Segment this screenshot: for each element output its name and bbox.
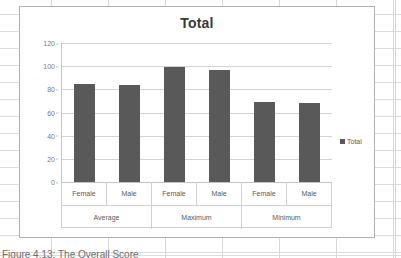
category-cell-statistic: Minimum: [242, 206, 331, 229]
bar[interactable]: [74, 84, 95, 182]
category-row-statistic: AverageMaximumMinimum: [62, 205, 331, 229]
category-row-gender: FemaleMaleFemaleMaleFemaleMale: [62, 182, 331, 205]
category-cell-gender: Male: [197, 182, 242, 205]
category-cell-gender: Female: [152, 182, 197, 205]
figure-caption: Figure 4.13: The Overall Score: [2, 249, 262, 258]
category-cell-gender: Female: [62, 182, 107, 205]
category-cell-gender: Male: [287, 182, 331, 205]
y-axis: 020406080100120: [32, 43, 58, 182]
y-axis-tick-label: 20: [47, 155, 55, 162]
category-cell-statistic: Average: [62, 206, 152, 229]
category-cell-gender: Male: [107, 182, 152, 205]
bar[interactable]: [209, 70, 230, 182]
y-axis-tick-label: 100: [43, 63, 55, 70]
bar[interactable]: [164, 67, 185, 182]
y-axis-tick-label: 40: [47, 132, 55, 139]
legend-square-marker-icon: [340, 139, 345, 144]
chart-object[interactable]: Total 020406080100120 FemaleMaleFemaleMa…: [19, 6, 375, 238]
category-cell-statistic: Maximum: [152, 206, 242, 229]
bar-group: [242, 43, 332, 182]
bar-group: [152, 43, 242, 182]
y-axis-tick-label: 80: [47, 86, 55, 93]
bar-group: [62, 43, 152, 182]
chart-title: Total: [20, 15, 374, 31]
bar[interactable]: [119, 85, 140, 182]
plot-area: [61, 43, 332, 182]
category-cell-gender: Female: [242, 182, 287, 205]
plot-wrapper: 020406080100120: [32, 43, 332, 193]
chart-legend[interactable]: Total: [340, 138, 362, 145]
y-axis-tick-label: 60: [47, 109, 55, 116]
category-axis-table: FemaleMaleFemaleMaleFemaleMale AverageMa…: [61, 182, 332, 228]
y-axis-tick-label: 0: [51, 179, 55, 186]
bar[interactable]: [299, 103, 320, 182]
legend-label: Total: [347, 138, 362, 145]
bar-series: [62, 43, 332, 182]
bar[interactable]: [254, 102, 275, 182]
y-axis-tick-label: 120: [43, 40, 55, 47]
